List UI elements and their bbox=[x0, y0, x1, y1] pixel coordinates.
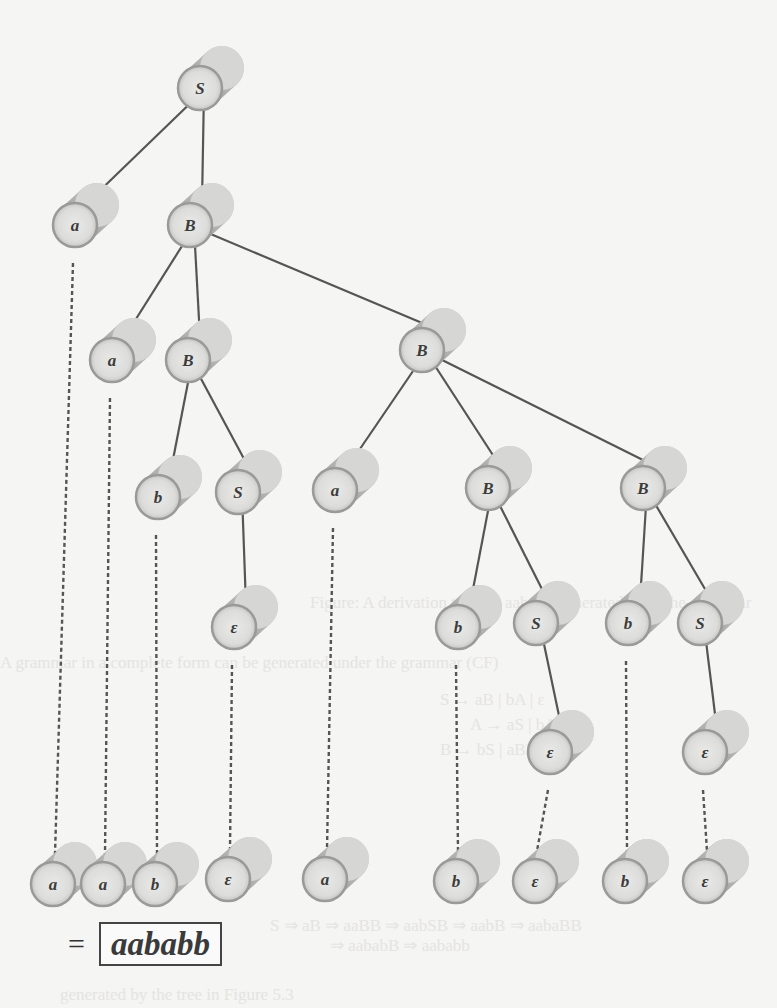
node-label: a bbox=[331, 481, 340, 500]
node-label: a bbox=[99, 875, 108, 894]
node-label: b bbox=[154, 488, 163, 507]
yield-node-a: a bbox=[303, 837, 369, 901]
node-a: a bbox=[90, 318, 156, 382]
node-B: B bbox=[466, 446, 532, 510]
yield-node-b: b bbox=[603, 839, 669, 903]
tree-edge bbox=[426, 352, 655, 466]
projection-arrow bbox=[55, 263, 73, 854]
node-epsilon: ε bbox=[528, 710, 594, 774]
result-word-box: aababb bbox=[99, 922, 222, 966]
node-label: ε bbox=[225, 870, 232, 889]
tree-edge bbox=[194, 227, 434, 328]
yield-node-epsilon: ε bbox=[683, 839, 749, 903]
yield-node-b: b bbox=[434, 839, 500, 903]
node-S: S bbox=[216, 450, 282, 514]
projection-arrow bbox=[456, 665, 458, 851]
projection-arrow bbox=[230, 665, 232, 849]
node-label: ε bbox=[702, 872, 709, 891]
derivation-tree: SaBaBBbSaBBεbSbSεε aabεabεbε bbox=[0, 0, 777, 1008]
node-label: B bbox=[636, 479, 648, 498]
node-b: b bbox=[136, 455, 202, 519]
node-label: b bbox=[151, 875, 160, 894]
node-S: S bbox=[178, 46, 244, 110]
node-label: B bbox=[181, 351, 193, 370]
node-label: ε bbox=[702, 743, 709, 762]
yield-node-epsilon: ε bbox=[513, 839, 579, 903]
node-b: b bbox=[606, 581, 672, 645]
node-label: b bbox=[454, 618, 463, 637]
projection-arrow bbox=[327, 528, 333, 849]
node-label: a bbox=[49, 875, 58, 894]
projection-arrow bbox=[105, 398, 110, 854]
node-label: ε bbox=[547, 743, 554, 762]
projection-lines bbox=[55, 263, 707, 854]
projection-arrow bbox=[703, 790, 707, 851]
equals-sign: = bbox=[68, 927, 85, 961]
node-label: S bbox=[531, 614, 540, 633]
node-label: B bbox=[415, 341, 427, 360]
node-label: a bbox=[71, 216, 80, 235]
node-label: b bbox=[624, 614, 633, 633]
node-a: a bbox=[313, 448, 379, 512]
node-B: B bbox=[166, 318, 232, 382]
node-label: B bbox=[183, 216, 195, 235]
yield-node-epsilon: ε bbox=[206, 837, 272, 901]
derivation-result: = aababb bbox=[68, 922, 222, 966]
node-S: S bbox=[514, 581, 580, 645]
node-label: b bbox=[452, 872, 461, 891]
projection-arrow bbox=[156, 535, 157, 854]
tree-edge bbox=[426, 352, 500, 466]
projection-arrow bbox=[626, 661, 627, 851]
node-epsilon: ε bbox=[212, 585, 278, 649]
node-S: S bbox=[678, 581, 744, 645]
node-label: a bbox=[108, 351, 117, 370]
node-b: b bbox=[436, 585, 502, 649]
node-B: B bbox=[168, 183, 234, 247]
node-label: S bbox=[195, 79, 204, 98]
node-a: a bbox=[53, 183, 119, 247]
node-label: S bbox=[233, 483, 242, 502]
node-B: B bbox=[621, 446, 687, 510]
node-label: b bbox=[621, 872, 630, 891]
node-label: S bbox=[695, 614, 704, 633]
node-label: ε bbox=[532, 872, 539, 891]
node-epsilon: ε bbox=[683, 710, 749, 774]
node-label: ε bbox=[231, 618, 238, 637]
node-label: a bbox=[321, 870, 330, 889]
node-label: B bbox=[481, 479, 493, 498]
yield-nodes: aabεabεbε bbox=[31, 837, 749, 906]
